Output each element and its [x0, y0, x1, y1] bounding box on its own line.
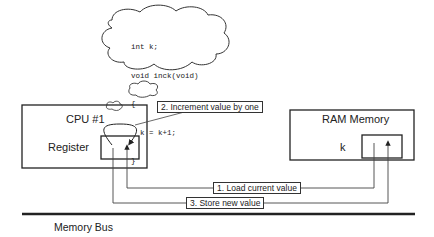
step-2-label: 2. Increment value by one	[157, 101, 263, 113]
thought-cloud-tiny	[106, 101, 122, 110]
ram-title: RAM Memory	[322, 113, 389, 125]
register-label: Register	[48, 141, 89, 153]
code-snippet: int k; void inck(void) { k = k+1; }	[131, 24, 199, 176]
code-line: }	[131, 157, 199, 167]
memory-bus-label: Memory Bus	[54, 221, 113, 233]
code-line: void inck(void)	[131, 72, 199, 82]
code-line: k = k+1;	[131, 129, 199, 139]
code-line: int k;	[131, 43, 199, 53]
k-box	[362, 135, 402, 158]
cpu-title: CPU #1	[66, 113, 105, 125]
k-label: k	[340, 141, 346, 153]
step-1-label: 1. Load current value	[213, 182, 301, 194]
step-3-label: 3. Store new value	[186, 197, 264, 209]
